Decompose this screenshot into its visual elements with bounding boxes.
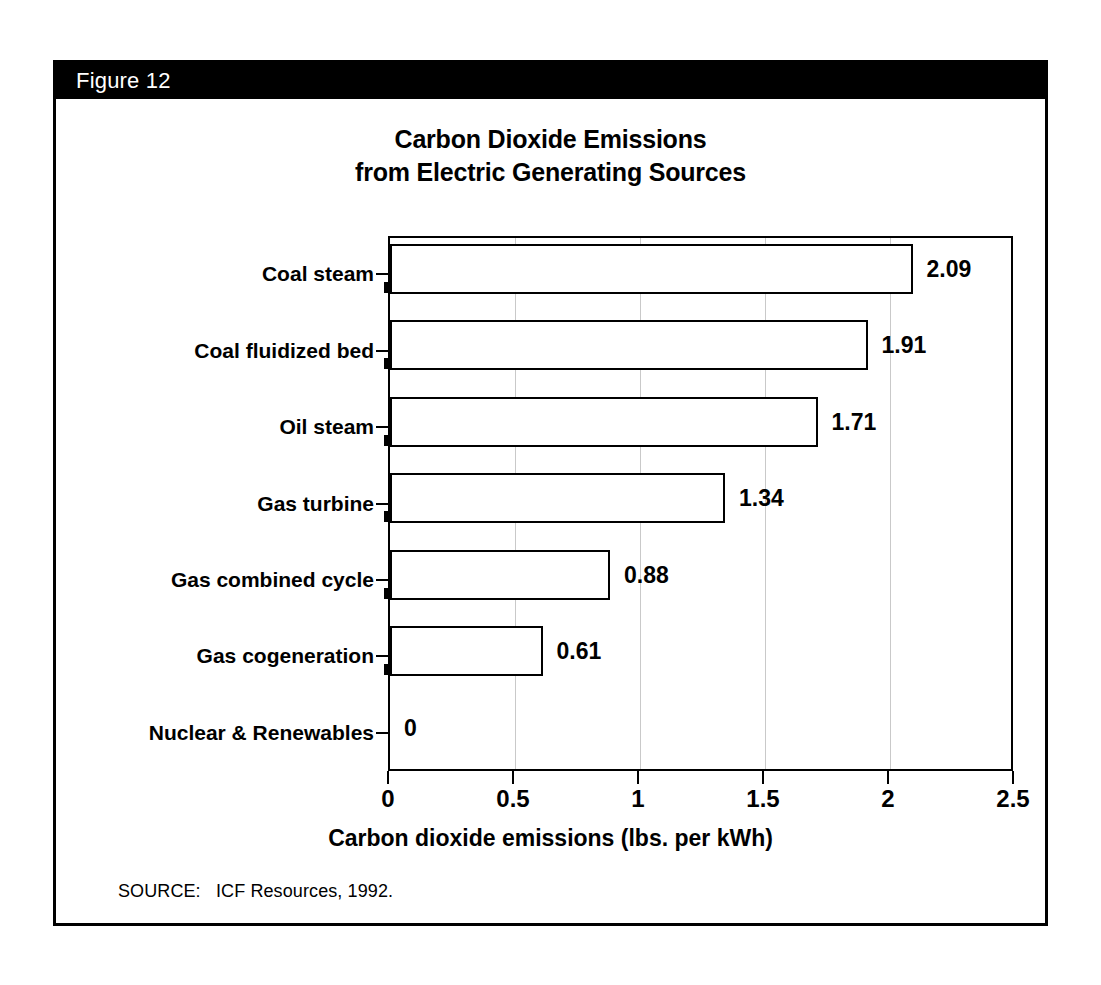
x-axis-tick-label: 1.5 — [746, 787, 779, 811]
y-axis-category-labels: Coal steamCoal fluidized bedOil steamGas… — [116, 236, 374, 771]
figure-header-band: Figure 12 — [56, 63, 1045, 99]
bar[interactable] — [390, 626, 543, 676]
bar[interactable] — [390, 550, 610, 600]
plot-inner: 2.091.911.711.340.880.610 — [390, 238, 1011, 769]
plot-area: 2.091.911.711.340.880.610 — [388, 236, 1013, 771]
chart-title-line-1: Carbon Dioxide Emissions — [56, 123, 1045, 156]
chart-title-line-2: from Electric Generating Sources — [56, 156, 1045, 189]
x-axis-tick-labels: 00.511.522.5 — [388, 787, 1013, 817]
x-axis-tick — [887, 771, 889, 784]
bar[interactable] — [390, 397, 818, 447]
x-axis-tick-label: 2.5 — [996, 787, 1029, 811]
bar-value-label: 0 — [404, 717, 417, 740]
x-axis-tick-label: 0.5 — [496, 787, 529, 811]
x-axis-tick-label: 2 — [881, 787, 894, 811]
bar-value-label: 1.91 — [882, 334, 927, 357]
bar-slot: 0 — [390, 697, 1011, 773]
source-note: SOURCE: ICF Resources, 1992. — [118, 881, 393, 902]
bar-slot: 0.88 — [390, 544, 1011, 620]
x-axis-tick — [637, 771, 639, 784]
bar-value-label: 0.61 — [557, 640, 602, 663]
y-axis-category-label: Gas turbine — [257, 493, 374, 514]
figure-number-label: Figure 12 — [76, 68, 171, 94]
x-axis-tick — [762, 771, 764, 784]
y-axis-category-label: Nuclear & Renewables — [149, 722, 374, 743]
bar-value-label: 1.71 — [832, 411, 877, 434]
y-axis-category-label: Gas combined cycle — [171, 569, 374, 590]
bar-slot: 1.34 — [390, 467, 1011, 543]
bar[interactable] — [390, 473, 725, 523]
figure-frame: Figure 12 Carbon Dioxide Emissions from … — [53, 60, 1048, 926]
bar-slot: 1.91 — [390, 314, 1011, 390]
bar-slot: 2.09 — [390, 238, 1011, 314]
x-axis-tick — [1012, 771, 1014, 784]
x-axis-ticks — [388, 771, 1013, 785]
bar-value-label: 2.09 — [927, 258, 972, 281]
bar-slot: 0.61 — [390, 620, 1011, 696]
bar[interactable] — [390, 320, 868, 370]
x-axis-tick-label: 0 — [381, 787, 394, 811]
y-axis-category-label: Gas cogeneration — [197, 645, 374, 666]
y-axis-category-label: Coal steam — [262, 263, 374, 284]
x-axis-tick — [387, 771, 389, 784]
x-axis-title: Carbon dioxide emissions (lbs. per kWh) — [56, 825, 1045, 852]
bar[interactable] — [390, 244, 913, 294]
bar-slot: 1.71 — [390, 391, 1011, 467]
x-axis-tick-label: 1 — [631, 787, 644, 811]
bar-value-label: 1.34 — [739, 487, 784, 510]
y-axis-category-label: Coal fluidized bed — [194, 340, 374, 361]
chart-title: Carbon Dioxide Emissions from Electric G… — [56, 123, 1045, 189]
x-axis-tick — [512, 771, 514, 784]
y-axis-category-label: Oil steam — [279, 416, 374, 437]
bar-value-label: 0.88 — [624, 564, 669, 587]
